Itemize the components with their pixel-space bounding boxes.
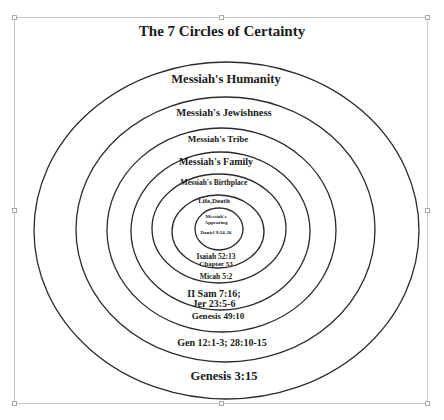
ring-2-top-label: Messiah's Jewishness xyxy=(0,107,444,119)
ring-3-top-label: Messiah's Tribe xyxy=(0,135,444,145)
ring-5-top-label: Messiah's Birthplace xyxy=(0,179,440,187)
ring-5-bottom-label: Micah 5:2 xyxy=(0,273,442,281)
ring-4-bottom-label-line2: Jer 23:5-6 xyxy=(0,298,440,309)
ring-7-center-label-line2: Appearing xyxy=(0,220,442,226)
ring-4-top-label: Messiah's Family xyxy=(0,156,442,167)
ring-1-bottom-label: Genesis 3:15 xyxy=(0,370,444,384)
ring-7-center-label-line1: Messiah's xyxy=(0,214,442,220)
ring-7-center-label-line3: Daniel 9:24-26 xyxy=(0,230,442,236)
ring-1-top-label: Messiah's Humanity xyxy=(0,73,444,87)
concentric-rings xyxy=(0,0,444,420)
ring-6-bottom-label-line2: Chapter 53 xyxy=(0,261,442,269)
ring-3-bottom-label: Genesis 49:10 xyxy=(0,312,444,322)
ring-6-top-label: Life,Death xyxy=(0,198,440,206)
ring-2-bottom-label: Gen 12:1-3; 28:10-15 xyxy=(0,337,444,348)
